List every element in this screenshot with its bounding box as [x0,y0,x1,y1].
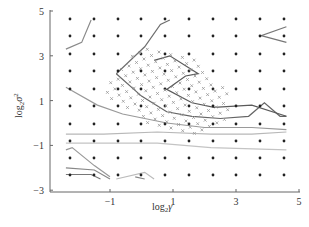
x-tick-label: 5 [297,196,302,207]
fine-grid-point [182,72,185,75]
grid-point [93,18,96,21]
grid-point [188,35,191,38]
chart: −3−1135 −1135 log2γ log2σ2 [0,0,309,227]
grid-point [212,157,215,160]
grid-point [259,70,262,73]
y-tick-label: −1 [33,140,44,151]
fine-grid-point [216,122,219,125]
grid-point [117,140,120,143]
contour-line [154,56,286,117]
fine-grid-point [187,94,190,97]
grid-point [259,88,262,91]
fine-grid-point [204,119,207,122]
grid-point [212,123,215,126]
fine-grid-point [178,66,181,69]
fine-grid-point [175,91,178,94]
contour-line [116,74,286,119]
grid-point [235,35,238,38]
grid-point [188,157,191,160]
grid-point [283,88,286,91]
fine-grid-point [134,103,137,106]
grid-point [69,123,72,126]
fine-grid-point [199,97,202,100]
fine-grid-point [146,48,149,51]
grid-point [93,88,96,91]
grid-point [259,157,262,160]
grid-point [259,35,262,38]
fine-grid-point [155,76,158,79]
grid-point [212,105,215,108]
grid-point [164,18,167,21]
fine-grid-point [173,117,176,120]
grid-point [283,35,286,38]
grid-point [235,53,238,56]
grid-point [140,35,143,38]
fine-grid-point [201,71,204,74]
fine-grid-point [140,83,143,86]
fine-grid-point [221,86,224,89]
grid-point [93,174,96,177]
fine-grid-point [201,129,204,132]
fine-grid-point [207,109,210,112]
grid-point [259,105,262,108]
grid-point [235,105,238,108]
fine-grid-point [124,74,127,77]
fine-grid-point [218,96,221,99]
fine-grid-point [154,60,157,63]
grid-point [259,123,262,126]
grid-point [235,140,238,143]
grid-point [259,140,262,143]
fine-grid-point [198,81,201,84]
contour-line [66,143,287,150]
grid-point [164,174,167,177]
fine-grid-point [183,88,186,91]
fine-grid-point [219,112,222,115]
grid-point [117,35,120,38]
fine-grid-point [225,92,228,95]
grid-point [93,35,96,38]
grid-point [212,174,215,177]
grid-point [164,157,167,160]
contour-line [66,148,110,177]
grid-point [69,88,72,91]
grid-point [93,140,96,143]
fine-grid-point [172,101,175,104]
grid-point [212,35,215,38]
grid-point [117,174,120,177]
fine-grid-point [147,64,150,67]
fine-grid-point [180,98,183,101]
fine-grid-point [170,127,173,130]
fine-grid-point [128,65,131,68]
x-axis-label: log2γ [152,201,173,214]
fine-grid-point [185,62,188,65]
fine-grid-point [136,77,139,80]
grid-point [188,174,191,177]
fine-grid-point [150,54,153,57]
grid-point [69,105,72,108]
fine-grid-point [132,71,135,74]
fine-grid-point [145,105,148,108]
grid-point [117,53,120,56]
fine-grid-point [196,122,199,125]
contour-line [135,177,145,179]
fine-grid-point [163,73,166,76]
contour-line [116,172,154,179]
grid-point [188,105,191,108]
fine-grid-points [106,48,229,135]
fine-grid-point [106,91,109,94]
y-tick-label: 5 [39,6,44,17]
grid-point [164,70,167,73]
fine-grid-point [141,99,144,102]
fine-grid-point [158,124,161,127]
grid-point [164,35,167,38]
fine-grid-point [190,84,193,87]
fine-grid-point [161,114,164,117]
contour-line [261,27,286,43]
grid-point [164,140,167,143]
grid-point [259,53,262,56]
fine-grid-point [160,98,163,101]
fine-grid-point [197,65,200,68]
grid-point [69,35,72,38]
fine-grid-point [109,81,112,84]
fine-grid-point [142,115,145,118]
